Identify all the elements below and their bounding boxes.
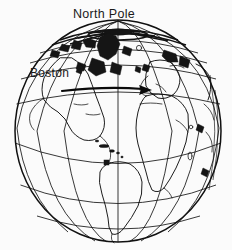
eastward-route-arrow (62, 85, 152, 95)
greenland (97, 33, 120, 60)
latitude-south-40 (37, 216, 200, 229)
na-inner-line (74, 104, 88, 105)
cuba (99, 144, 109, 147)
puerto-rico (116, 152, 119, 154)
asia-edge-mid (204, 104, 214, 120)
horn-of-africa (176, 120, 188, 132)
globe-illustration (0, 0, 232, 250)
europe-coast (146, 60, 181, 99)
baffin-region (88, 58, 106, 76)
asia-edge-south (206, 132, 212, 152)
boston-label: Boston (30, 66, 69, 80)
north-africa-line (140, 103, 162, 104)
south-america (99, 160, 142, 243)
south-america-coast (99, 162, 142, 235)
great-lakes (86, 114, 100, 115)
globe-diagram-figure: North Pole Boston (0, 0, 232, 250)
caribbean-islands (95, 140, 123, 158)
madagascar-strait (164, 188, 172, 198)
iceland-area (110, 62, 122, 75)
north-pole-label: North Pole (73, 7, 135, 21)
bahamas (95, 140, 99, 142)
lesser-antilles (121, 156, 123, 158)
route-arrow-shaft (62, 88, 143, 91)
africa (136, 94, 192, 198)
africa-coast (136, 94, 189, 192)
ireland (135, 66, 141, 73)
hispaniola (110, 150, 115, 153)
island-small-1 (189, 125, 193, 129)
meridian-lines (17, 20, 219, 242)
sa-north-marker (104, 160, 109, 165)
svalbard (122, 46, 132, 56)
